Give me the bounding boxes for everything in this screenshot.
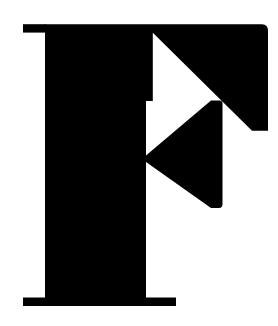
top-serif-stroke: [23, 24, 46, 32]
glyph-canvas: Black uppercase serif letter F F Large b…: [0, 0, 278, 326]
stem-stroke: [45, 24, 146, 306]
bottom-serif-stroke: [23, 297, 176, 306]
letter-f-glyph: Black uppercase serif letter F: [0, 0, 278, 326]
